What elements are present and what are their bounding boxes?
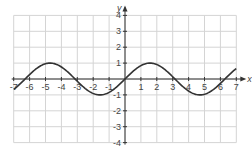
x-tick-label: -6 xyxy=(26,82,34,92)
y-tick-label: -1 xyxy=(113,90,121,100)
y-tick-label: -3 xyxy=(113,122,121,132)
x-tick-label: 3 xyxy=(170,82,175,92)
x-tick-label: -5 xyxy=(41,82,49,92)
x-axis-label: x xyxy=(246,74,252,84)
x-tick-label: 1 xyxy=(138,82,143,92)
x-tick-label: -2 xyxy=(89,82,97,92)
y-tick-label: -4 xyxy=(113,138,121,147)
x-tick-label: 5 xyxy=(202,82,207,92)
y-tick-label: 1 xyxy=(116,58,121,68)
y-axis-label: y xyxy=(116,3,122,13)
y-tick-label: 3 xyxy=(116,26,121,36)
sine-graph: -7-6-5-4-3-2-11234567-4-3-2-11234 x y xyxy=(0,0,252,147)
y-tick-label: 2 xyxy=(116,42,121,52)
y-tick-label: -2 xyxy=(113,106,121,116)
x-tick-label: -4 xyxy=(57,82,65,92)
x-tick-label: 2 xyxy=(154,82,159,92)
x-tick-label: 7 xyxy=(234,82,239,92)
